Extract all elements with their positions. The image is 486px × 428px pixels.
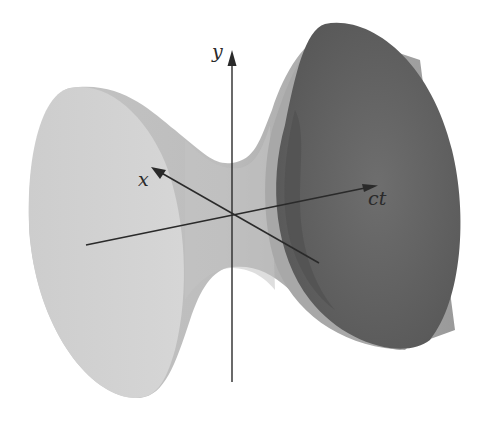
hyperboloid-surface — [0, 0, 486, 428]
x-axis-label: x — [138, 170, 149, 189]
hyperboloid-figure: y x ct — [0, 0, 486, 428]
ct-axis-label: ct — [368, 189, 386, 208]
y-axis-arrowhead — [228, 50, 237, 66]
y-axis-label: y — [212, 42, 223, 61]
